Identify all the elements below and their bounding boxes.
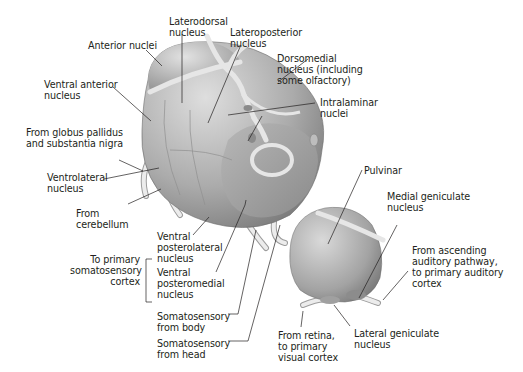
label-from-cerebellum: From cerebellum	[76, 208, 129, 230]
label-ventrolateral-nucleus: Ventrolateral nucleus	[47, 172, 108, 194]
label-from-retina: From retina, to primary visual cortex	[278, 330, 338, 363]
label-ventral-anterior-nucleus: Ventral anterior nucleus	[44, 79, 118, 101]
label-anterior-nuclei: Anterior nuclei	[88, 40, 157, 51]
label-to-somatosensory-cortex: To primary somatosensory cortex	[70, 254, 140, 287]
thalamus-diagram: Anterior nuclei Laterodorsal nucleus Lat…	[0, 0, 523, 372]
label-pulvinar: Pulvinar	[364, 165, 402, 176]
label-intralaminar-nuclei: Intralaminar nuclei	[320, 97, 378, 119]
label-globus-pallidus-input: From globus pallidus and substantia nigr…	[26, 127, 123, 149]
label-lateral-geniculate-nucleus: Lateral geniculate nucleus	[354, 328, 439, 350]
label-lateroposterior-nucleus: Lateroposterior nucleus	[230, 27, 302, 49]
label-dorsomedial-nucleus: Dorsomedial nucleus (including some olfa…	[277, 53, 363, 86]
label-somatosensory-from-body: Somatosensory from body	[157, 311, 230, 333]
label-auditory-pathway: From ascending auditory pathway, to prim…	[412, 245, 503, 289]
label-laterodorsal-nucleus: Laterodorsal nucleus	[169, 16, 228, 38]
label-somatosensory-from-head: Somatosensory from head	[157, 338, 230, 360]
pulvinar-block	[290, 207, 383, 305]
label-ventral-posteromedial-nucleus: Ventral posteromedial nucleus	[157, 267, 224, 300]
label-medial-geniculate-nucleus: Medial geniculate nucleus	[387, 191, 470, 213]
label-ventral-posterolateral-nucleus: Ventral posterolateral nucleus	[157, 231, 223, 264]
